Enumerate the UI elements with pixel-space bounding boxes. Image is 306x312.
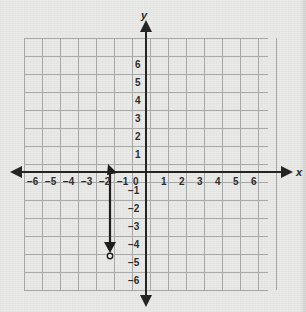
y-tick-label-5: 5 [135,78,141,88]
x-tick-label-4: 4 [215,177,221,187]
coordinate-plane-figure: x y −6−5−4−3−2−10123456−6−5−4−3−2−112345… [0,0,306,312]
y-axis-bottom-arrowhead [140,295,152,307]
x-tick-label-3: 3 [197,177,203,187]
y-tick-label--6: −6 [128,276,139,286]
x-tick-label--1: −1 [117,177,128,187]
x-tick-label--4: −4 [63,177,74,187]
vertical-ray-top-arrowhead [107,164,117,175]
y-tick-label-4: 4 [135,96,141,106]
x-tick-label-2: 2 [179,177,185,187]
y-tick-label--2: −2 [128,204,139,214]
y-tick-label-2: 2 [135,132,141,142]
y-tick-label--1: −1 [128,186,139,196]
y-axis-name-label: y [141,10,147,21]
y-tick-label-3: 3 [135,114,141,124]
x-tick-label-1: 1 [161,177,167,187]
y-tick-label--4: −4 [128,240,139,250]
y-tick-label-1: 1 [135,150,141,160]
open-endpoint-circle [107,253,112,258]
y-tick-label--3: −3 [128,222,139,232]
y-tick-label-6: 6 [135,60,141,70]
x-tick-label--3: −3 [81,177,92,187]
x-tick-label--5: −5 [45,177,56,187]
x-tick-label--6: −6 [27,177,38,187]
y-axis-top-arrowhead [140,20,152,32]
y-tick-label--5: −5 [128,258,139,268]
scan-edge-shadow [300,0,306,312]
grid-lines [24,38,276,290]
x-tick-label--2: −2 [99,177,110,187]
x-tick-label-5: 5 [233,177,239,187]
x-axis-right-arrowhead [281,166,293,178]
x-tick-label-6: 6 [251,177,257,187]
plot-canvas [0,0,306,312]
x-axis-left-arrowhead [10,166,22,178]
